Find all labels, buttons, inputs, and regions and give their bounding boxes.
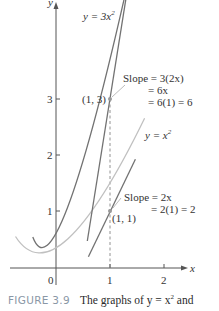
caption-text-prefix: The graphs of y = x [80, 294, 170, 306]
tangent-line-at-1-3 [87, 0, 126, 241]
figure-caption: FIGURE 3.9The graphs of y = x2 and [8, 293, 193, 306]
x-tick-label-1: 1 [107, 274, 113, 286]
curve-x2-label-text: y = x [145, 129, 168, 141]
x-tick-label-2: 2 [161, 274, 167, 286]
point-1-1-label: (1, 1) [112, 212, 136, 224]
slope-leader-line [112, 85, 125, 97]
curve-3x2-label-exp: 2 [111, 9, 115, 17]
curve-x2-label: y = x2 [145, 126, 171, 141]
point-1-3 [108, 97, 112, 101]
slope-top-line2: = 6x [148, 84, 168, 96]
x-tick-label-0: 0 [48, 274, 54, 286]
tangent-line-at-1-1 [88, 159, 135, 257]
slope-top-line3: = 6(1) = 6 [148, 96, 192, 108]
curve-3x2-label-text: y = 3x [83, 10, 111, 22]
y-tick-label-3: 3 [47, 93, 53, 105]
slope-top-line1: Slope = 3(2x) [123, 72, 184, 84]
caption-text: The graphs of y = x2 and [80, 294, 193, 306]
x-axis-arrow-icon [181, 266, 188, 271]
point-1-3-label: (1, 3) [82, 93, 106, 105]
curve-x2-label-exp: 2 [168, 128, 172, 136]
slope-bottom-line1: Slope = 2x [124, 191, 172, 203]
x-axis-label: x [190, 262, 195, 274]
figure-number: FIGURE 3.9 [8, 294, 70, 306]
figure-plot [0, 0, 219, 290]
y-axis-arrow-icon [54, 2, 59, 9]
y-tick-label-1: 1 [47, 205, 53, 217]
curve-x-squared [16, 118, 145, 253]
caption-text-suffix: and [174, 294, 193, 306]
y-axis-label: y [48, 0, 53, 8]
curve-3x2-label: y = 3x2 [83, 7, 115, 22]
slope-bottom-line2: = 2(1) = 2 [151, 203, 195, 215]
y-tick-label-2: 2 [47, 149, 53, 161]
